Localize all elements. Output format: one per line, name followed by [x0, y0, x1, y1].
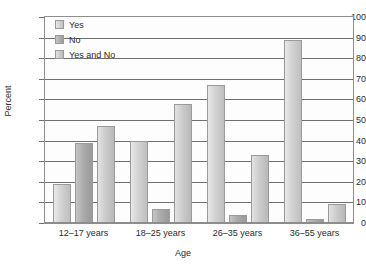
legend-swatch-icon — [55, 50, 64, 59]
x-tick-label: 12–17 years — [45, 228, 122, 238]
bar-chart: Percent 0102030405060708090100 12–17 yea… — [0, 0, 366, 272]
legend-swatch-icon — [55, 20, 64, 29]
bar — [328, 204, 346, 223]
y-axis-title: Percent — [3, 71, 13, 131]
legend-item: No — [55, 33, 115, 46]
bar — [97, 126, 115, 223]
x-tick-label: 18–25 years — [122, 228, 199, 238]
gridline — [45, 141, 353, 142]
bar — [207, 85, 225, 223]
legend-label: Yes and No — [69, 50, 115, 60]
legend-label: Yes — [69, 20, 84, 30]
x-tick-label: 26–35 years — [199, 228, 276, 238]
gridline — [45, 120, 353, 121]
x-tick-label: 36–55 years — [276, 228, 353, 238]
axis-baseline — [45, 222, 353, 223]
legend-item: Yes — [55, 18, 115, 31]
bar — [130, 141, 148, 223]
bar — [53, 184, 71, 223]
bar — [284, 40, 302, 223]
gridline — [45, 99, 353, 100]
bar — [251, 155, 269, 223]
bar — [174, 104, 192, 223]
chart-legend: YesNoYes and No — [55, 18, 115, 63]
legend-item: Yes and No — [55, 48, 115, 61]
gridline — [45, 79, 353, 80]
x-axis-title: Age — [0, 248, 366, 258]
bar — [152, 209, 170, 223]
legend-swatch-icon — [55, 35, 64, 44]
bar — [75, 143, 93, 223]
legend-label: No — [69, 35, 81, 45]
